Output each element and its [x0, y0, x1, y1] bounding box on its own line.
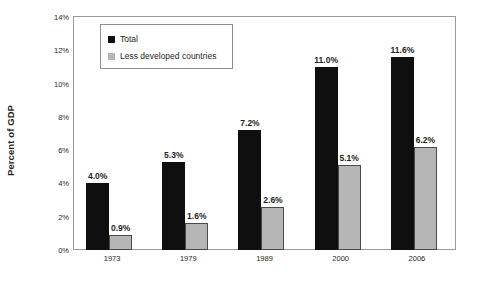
bar-less-developed-countries — [109, 235, 132, 250]
bar-value-label: 7.2% — [233, 118, 266, 128]
bar-value-label: 11.0% — [310, 55, 343, 65]
bar-group: 11.6%6.2% — [379, 17, 455, 250]
bar-total — [238, 130, 261, 250]
bar-chart: Percent of GDP 0%2%4%6%8%10%12%14% 4.0%0… — [0, 0, 481, 281]
x-axis-ticks: 19731979198920002006 — [74, 254, 455, 270]
chart-legend: Total Less developed countries — [100, 24, 233, 69]
legend-item-total: Total — [108, 31, 225, 47]
y-axis-tick-label: 2% — [41, 212, 69, 221]
bar-less-developed-countries — [185, 223, 208, 250]
bar-group: 7.2%2.6% — [226, 17, 302, 250]
x-axis-tick-label: 1973 — [104, 254, 121, 263]
x-axis-tick-label: 1989 — [256, 254, 273, 263]
bar-total — [391, 57, 414, 250]
x-axis-tick-label: 1979 — [180, 254, 197, 263]
y-axis-tick-label: 8% — [41, 112, 69, 121]
y-axis-tick-label: 0% — [41, 246, 69, 255]
bar-total — [86, 183, 109, 250]
y-axis-tick-label: 6% — [41, 146, 69, 155]
y-axis-ticks: 0%2%4%6%8%10%12%14% — [37, 0, 69, 281]
bar-value-label: 11.6% — [386, 45, 419, 55]
y-axis-tick-label: 14% — [41, 13, 69, 22]
bar-less-developed-countries — [261, 207, 284, 250]
bar-value-label: 4.0% — [81, 171, 114, 181]
bar-value-label: 1.6% — [180, 211, 213, 221]
legend-swatch-icon-less-developed-countries — [108, 53, 115, 60]
y-axis-title: Percent of GDP — [0, 0, 22, 281]
bar-less-developed-countries — [414, 147, 437, 250]
y-axis-tick-label: 4% — [41, 179, 69, 188]
x-axis-tick-label: 2006 — [409, 254, 426, 263]
bar-value-label: 5.1% — [333, 153, 366, 163]
bar-value-label: 5.3% — [157, 150, 190, 160]
y-axis-tick-label: 12% — [41, 46, 69, 55]
bar-value-label: 6.2% — [409, 135, 442, 145]
bar-value-label: 2.6% — [256, 195, 289, 205]
bar-total — [162, 162, 185, 250]
bar-value-label: 0.9% — [104, 223, 137, 233]
bar-less-developed-countries — [338, 165, 361, 250]
legend-swatch-icon-total — [108, 36, 115, 43]
bar-group: 11.0%5.1% — [303, 17, 379, 250]
legend-item-less-developed-countries: Less developed countries — [108, 48, 225, 64]
legend-label-total: Total — [120, 34, 138, 44]
x-axis-tick-label: 2000 — [332, 254, 349, 263]
legend-label-less-developed-countries: Less developed countries — [120, 51, 216, 61]
y-axis-tick-label: 10% — [41, 79, 69, 88]
